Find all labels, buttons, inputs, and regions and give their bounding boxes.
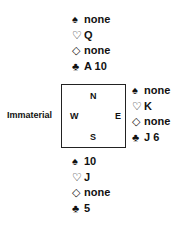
south-hearts: ♡J (72, 170, 110, 186)
north-hearts: ♡Q (72, 28, 110, 44)
north-diamonds-cards: none (84, 44, 110, 56)
east-diamonds: ◇none (132, 114, 170, 130)
east-clubs: ♣J 6 (132, 130, 170, 146)
west-label: Immaterial (7, 110, 52, 120)
south-hearts-cards: J (84, 171, 90, 183)
diamond-icon: ◇ (132, 114, 144, 130)
club-icon: ♣ (132, 130, 144, 146)
diamond-icon: ◇ (72, 185, 84, 201)
north-clubs-cards: A 10 (84, 60, 107, 72)
compass-table: N W E S (61, 84, 126, 148)
club-icon: ♣ (72, 201, 84, 217)
diamond-icon: ◇ (72, 43, 84, 59)
south-diamonds-cards: none (84, 186, 110, 198)
spade-icon: ♠ (72, 154, 84, 170)
east-spades-cards: none (144, 84, 170, 96)
north-clubs: ♣A 10 (72, 59, 110, 75)
south-hand: ♠10 ♡J ◇none ♣5 (72, 154, 110, 216)
north-spades: ♠none (72, 12, 110, 28)
heart-icon: ♡ (72, 170, 84, 186)
south-clubs-cards: 5 (84, 202, 90, 214)
club-icon: ♣ (72, 59, 84, 75)
east-clubs-cards: J 6 (144, 131, 159, 143)
spade-icon: ♠ (132, 83, 144, 99)
compass-south: S (90, 132, 96, 142)
compass-east: E (115, 111, 121, 121)
spade-icon: ♠ (72, 12, 84, 28)
north-spades-cards: none (84, 13, 110, 25)
east-hand: ♠none ♡K ◇none ♣J 6 (132, 83, 170, 145)
heart-icon: ♡ (132, 99, 144, 115)
south-diamonds: ◇none (72, 185, 110, 201)
compass-north: N (90, 91, 97, 101)
compass-west: W (70, 111, 79, 121)
north-hand: ♠none ♡Q ◇none ♣A 10 (72, 12, 110, 74)
south-spades: ♠10 (72, 154, 110, 170)
south-clubs: ♣5 (72, 201, 110, 217)
south-spades-cards: 10 (84, 155, 96, 167)
heart-icon: ♡ (72, 28, 84, 44)
north-hearts-cards: Q (84, 29, 93, 41)
east-hearts: ♡K (132, 99, 170, 115)
east-spades: ♠none (132, 83, 170, 99)
east-diamonds-cards: none (144, 115, 170, 127)
north-diamonds: ◇none (72, 43, 110, 59)
east-hearts-cards: K (144, 100, 152, 112)
